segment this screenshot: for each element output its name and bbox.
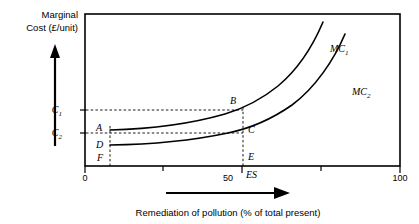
y-tick-label-c1: C1 <box>52 104 62 118</box>
point-label-d: D <box>95 139 104 150</box>
x-tick-label-50: 50 <box>223 173 233 183</box>
x-axis-arrow <box>166 187 290 199</box>
point-label-a: A <box>95 122 103 133</box>
point-label-es: ES <box>245 169 257 180</box>
x-tick-label-0: 0 <box>82 173 87 183</box>
curve-mc1 <box>110 22 323 130</box>
marginal-cost-remediation-chart: MC1 MC2 C1 C2 A B C D E F ES 0 50 100 Ma… <box>0 0 419 224</box>
y-tick-label-c2: C2 <box>52 127 63 141</box>
curve-label-mc2: MC2 <box>351 86 371 100</box>
chart-svg: MC1 MC2 C1 C2 A B C D E F ES 0 50 100 Ma… <box>0 0 419 224</box>
y-axis-title-line1: Marginal <box>42 9 78 20</box>
point-label-b: B <box>230 95 236 106</box>
x-tick-label-100: 100 <box>392 173 407 183</box>
x-axis-caption: Remediation of pollution (% of total pre… <box>136 207 321 218</box>
y-axis-title-line2: Cost (£/unit) <box>26 22 78 33</box>
point-label-f: F <box>96 152 104 163</box>
x-axis-ticks <box>85 166 400 173</box>
curve-label-mc1: MC1 <box>329 43 349 57</box>
point-label-e: E <box>247 151 254 162</box>
point-label-c: C <box>248 124 255 135</box>
